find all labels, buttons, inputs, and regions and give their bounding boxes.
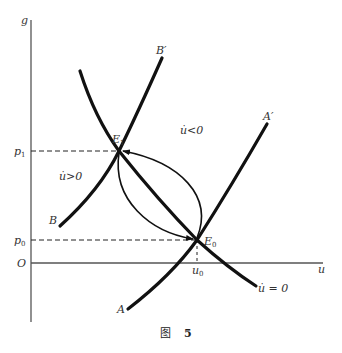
phase-diagram: g u O p1 p0 u0 E1 E0 B B′ A A′ u̇ = 0 u̇… (0, 0, 342, 353)
B-label: B (48, 214, 57, 227)
u0-label: u0 (192, 264, 204, 278)
A-label: A (116, 303, 125, 316)
u-dot-zero-label: u̇ = 0 (258, 282, 288, 295)
g-axis-label: g (21, 14, 28, 27)
figure-caption-number: 5 (184, 327, 192, 340)
region-u-dot-positive: u̇>0 (59, 170, 82, 183)
u-axis-label: u (318, 263, 325, 276)
E0-label: E0 (203, 235, 217, 249)
region-u-dot-negative: u̇<0 (180, 124, 203, 137)
origin-label: O (17, 257, 26, 270)
figure-caption-char: 图 (160, 327, 171, 340)
A-prime-label: A′ (262, 110, 274, 123)
curve-u-dot-zero (80, 71, 256, 286)
B-prime-label: B′ (155, 44, 167, 57)
E1-label: E1 (111, 133, 125, 147)
p0-label: p0 (14, 234, 26, 248)
path-E0-to-E1 (123, 151, 201, 238)
p1-label: p1 (14, 145, 26, 159)
